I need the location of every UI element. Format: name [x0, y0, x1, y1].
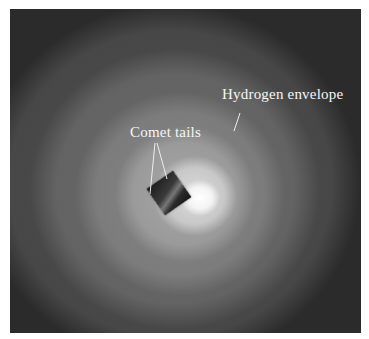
- tails-leader-line-1: [150, 143, 155, 194]
- tails-leader-line-2: [157, 143, 167, 179]
- comet-tails-label: Comet tails: [130, 124, 201, 141]
- leader-lines: [0, 0, 369, 339]
- hydrogen-envelope-label: Hydrogen envelope: [222, 86, 343, 103]
- hydrogen-leader-line: [234, 113, 240, 131]
